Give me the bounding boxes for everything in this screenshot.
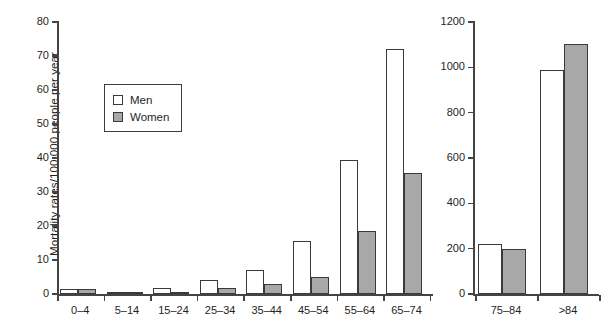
bar-men xyxy=(60,289,78,294)
bar-women xyxy=(125,292,143,294)
legend-swatch-men-icon xyxy=(113,95,123,105)
left-panel-y-tick xyxy=(52,259,57,261)
left-panel-y-tick xyxy=(52,157,57,159)
left-panel-x-tick xyxy=(104,295,106,301)
x-axis-category-label: 75–84 xyxy=(476,304,536,316)
right-panel-y-tick-label: 800 xyxy=(425,106,465,118)
left-panel-y-tick-label: 30 xyxy=(9,185,49,197)
bar-women xyxy=(502,249,526,294)
x-axis-category-label: 65–74 xyxy=(377,304,437,316)
left-panel-y-tick-label: 50 xyxy=(9,117,49,129)
right-panel-y-tick xyxy=(468,293,473,295)
right-panel-y-tick xyxy=(468,157,473,159)
left-panel-y-tick xyxy=(52,21,57,23)
right-panel-y-tick xyxy=(468,67,473,69)
left-panel-y-tick xyxy=(52,89,57,91)
bar-men xyxy=(293,241,311,294)
left-panel-y-tick-label: 40 xyxy=(9,151,49,163)
bar-women xyxy=(78,289,96,294)
x-axis-category-label: >84 xyxy=(538,304,598,316)
left-panel-y-tick-label: 0 xyxy=(9,287,49,299)
bar-men xyxy=(478,244,502,294)
bar-women xyxy=(264,284,282,294)
right-panel-y-tick-label: 0 xyxy=(425,287,465,299)
bar-men xyxy=(540,70,564,294)
left-panel-y-tick xyxy=(52,191,57,193)
left-panel-y-axis-line xyxy=(57,21,59,295)
right-panel-y-tick xyxy=(468,21,473,23)
bar-women xyxy=(171,292,189,294)
left-panel-x-tick xyxy=(197,295,199,301)
right-panel-y-tick-label: 1200 xyxy=(425,15,465,27)
bar-men xyxy=(200,280,218,294)
left-panel-x-tick xyxy=(150,295,152,301)
legend-item-women: Women xyxy=(113,108,169,125)
legend-label-men: Men xyxy=(130,94,152,106)
bar-men xyxy=(246,270,264,294)
left-panel-x-tick xyxy=(243,295,245,301)
left-panel-y-tick xyxy=(52,55,57,57)
bar-women xyxy=(564,44,588,294)
bar-men xyxy=(107,292,125,294)
right-panel-y-axis-line xyxy=(473,21,475,295)
bar-women xyxy=(404,173,422,294)
legend-label-women: Women xyxy=(130,111,169,123)
left-panel-x-tick xyxy=(290,295,292,301)
left-panel-y-tick-label: 70 xyxy=(9,49,49,61)
left-panel-y-tick-label: 60 xyxy=(9,83,49,95)
legend: Men Women xyxy=(104,84,182,132)
legend-item-men: Men xyxy=(113,91,169,108)
right-panel-x-tick xyxy=(599,295,601,301)
bar-women xyxy=(311,277,329,294)
left-panel-y-tick xyxy=(52,123,57,125)
right-panel-y-tick-label: 200 xyxy=(425,242,465,254)
left-panel-x-tick xyxy=(337,295,339,301)
left-panel-y-tick-label: 10 xyxy=(9,253,49,265)
right-panel-x-tick xyxy=(475,295,477,301)
left-panel-x-tick xyxy=(383,295,385,301)
right-panel-y-tick xyxy=(468,112,473,114)
left-panel-y-tick-label: 20 xyxy=(9,219,49,231)
right-panel-y-tick xyxy=(468,203,473,205)
left-panel-y-tick-label: 80 xyxy=(9,15,49,27)
bar-men xyxy=(153,288,171,294)
bar-women xyxy=(358,231,376,294)
bar-women xyxy=(218,288,236,294)
bar-men xyxy=(386,49,404,294)
right-panel-y-tick-label: 600 xyxy=(425,151,465,163)
chart-figure: Mortality rates/100 000 people per year … xyxy=(0,0,604,334)
legend-swatch-women-icon xyxy=(113,112,123,122)
left-panel-x-tick xyxy=(57,295,59,301)
right-panel-y-tick-label: 1000 xyxy=(425,60,465,72)
right-panel-y-tick xyxy=(468,248,473,250)
bar-men xyxy=(340,160,358,294)
left-panel-y-tick xyxy=(52,225,57,227)
right-panel-x-tick xyxy=(537,295,539,301)
right-panel-x-axis-line xyxy=(473,294,599,296)
right-panel-y-tick-label: 400 xyxy=(425,196,465,208)
